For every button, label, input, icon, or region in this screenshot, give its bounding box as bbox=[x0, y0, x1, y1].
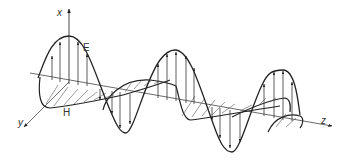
y-axis-label: y bbox=[17, 117, 24, 128]
z-axis-label: z bbox=[320, 115, 326, 126]
magnetic-field-wave bbox=[39, 77, 302, 132]
electric-field-vectors bbox=[52, 42, 292, 148]
em-wave-diagram: x y z E H bbox=[0, 0, 347, 164]
y-axis bbox=[24, 82, 69, 127]
magnetic-field-label: H bbox=[63, 107, 70, 118]
x-axis-label: x bbox=[56, 7, 63, 18]
electric-field-label: E bbox=[83, 42, 90, 53]
z-axis bbox=[30, 73, 332, 126]
electric-field-wave bbox=[38, 36, 300, 152]
